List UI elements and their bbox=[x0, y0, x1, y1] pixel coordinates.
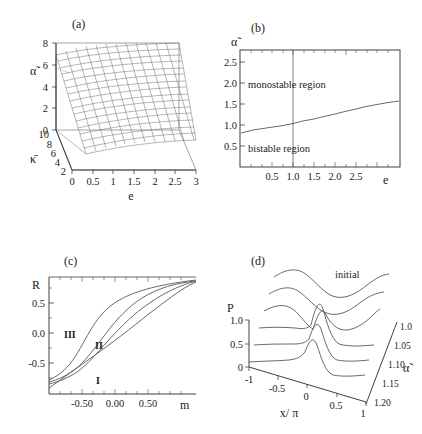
panel-d-depth-105: 1.05 bbox=[394, 341, 411, 351]
panel-c-bottom-ticks bbox=[60, 389, 181, 394]
panel-c-curve-label-II: II bbox=[95, 340, 103, 351]
panel-c-label: (c) bbox=[64, 254, 77, 268]
panel-a-xaxis-label: e bbox=[128, 189, 133, 203]
panel-d-zaxis-label: α̃ bbox=[403, 361, 413, 375]
panel-d-trace-1 bbox=[269, 288, 384, 315]
panel-c-xtick-050: 0.50 bbox=[139, 398, 157, 409]
panel-c-ytick-05: 0.5 bbox=[32, 298, 45, 309]
panel-c-yaxis-label: R bbox=[32, 278, 40, 292]
panel-b-ytick-15: 1.5 bbox=[224, 99, 237, 110]
panel-b-yaxis-label: α̃ bbox=[231, 35, 241, 49]
panel-b-label: (b) bbox=[251, 21, 265, 35]
panel-c-curve-label-III: III bbox=[64, 329, 76, 340]
panel-c-left-ticks bbox=[49, 303, 54, 363]
panel-b-bottom-ticks bbox=[251, 162, 388, 167]
panel-b-top-ticks bbox=[251, 50, 388, 55]
panel-d-depth-115: 1.15 bbox=[382, 379, 399, 389]
panel-d-trace-115 bbox=[254, 324, 369, 361]
panel-b: (b) bbox=[211, 0, 422, 217]
panel-b-xtick-05: 0.5 bbox=[265, 171, 278, 182]
panel-c-xtick-000: 0.00 bbox=[106, 398, 124, 409]
panel-b-xtick-15: 1.5 bbox=[307, 171, 320, 182]
panel-a-yaxis-label: κ̄ bbox=[30, 152, 38, 166]
panel-a: (a) bbox=[0, 0, 211, 217]
panel-d-zaxis: 1.0 1.05 1.10 1.15 1.20 α̃ bbox=[366, 322, 413, 408]
panel-a-xtick-15: 1.5 bbox=[127, 176, 140, 187]
panel-c-svg: (c) bbox=[0, 217, 211, 434]
panel-b-ytick-05: 0.5 bbox=[224, 141, 237, 152]
panel-b-xaxis-label: e bbox=[383, 173, 388, 187]
panel-c: (c) bbox=[0, 217, 211, 434]
panel-b-monostable-label: monostable region bbox=[248, 79, 327, 90]
panel-c-ytick-00: 0.0 bbox=[32, 328, 45, 339]
panel-c-xtick-neg050: -0.50 bbox=[71, 398, 93, 409]
panel-b-svg: (b) bbox=[211, 0, 422, 217]
panel-b-xtick-25: 2.5 bbox=[349, 171, 362, 182]
panel-d-xtick-neg05: -0.5 bbox=[269, 383, 286, 394]
panel-d-trace-105 bbox=[264, 306, 380, 331]
panel-d-label: (d) bbox=[251, 254, 265, 268]
panel-a-yaxis: 10 8 6 4 2 κ̄ bbox=[30, 129, 72, 177]
panel-d-xtick-0: 0 bbox=[303, 391, 308, 402]
panel-d-xtick-05: 0.5 bbox=[329, 400, 342, 411]
panel-a-xtick-1: 1 bbox=[110, 176, 115, 187]
panel-d-xaxis-label: x/ π bbox=[280, 406, 298, 420]
panel-b-ytick-10: 1.0 bbox=[224, 120, 237, 131]
panel-a-mesh-rows bbox=[56, 43, 196, 154]
panel-a-xtick-2: 2 bbox=[152, 176, 157, 187]
panel-c-xaxis-label: m bbox=[180, 398, 190, 412]
panel-a-ytick-2: 2 bbox=[61, 166, 66, 177]
panel-d-xtick-1: 1 bbox=[360, 408, 365, 419]
panel-a-xtick-25: 2.5 bbox=[168, 176, 181, 187]
panel-a-ztick-2: 2 bbox=[43, 103, 48, 114]
panel-c-curve-label-I: I bbox=[96, 375, 100, 386]
panel-a-zaxis: 8 6 4 2 0 α̃ bbox=[30, 38, 56, 136]
panel-c-ytick-neg05: -0.5 bbox=[28, 358, 45, 369]
panel-b-bistable-label: bistable region bbox=[248, 143, 311, 154]
panel-d-initial-label: initial bbox=[335, 269, 360, 280]
panel-a-ztick-4: 4 bbox=[43, 82, 49, 93]
panel-a-label: (a) bbox=[72, 17, 85, 31]
panel-a-svg: (a) bbox=[0, 0, 211, 217]
panel-a-box bbox=[56, 43, 196, 170]
panel-a-xaxis: 0 0.5 1 1.5 2 2.5 3 e bbox=[69, 170, 198, 203]
figure-container: (a) bbox=[0, 0, 422, 434]
panel-d-xaxis: -1 -0.5 0 0.5 1 x/ π bbox=[245, 367, 366, 420]
panel-d: (d) 1.0 0.5 0 P bbox=[211, 217, 422, 434]
panel-d-ytick-0: 0 bbox=[238, 362, 243, 373]
panel-a-zaxis-label: α̃ bbox=[30, 64, 40, 78]
panel-d-ytick-10: 1.0 bbox=[230, 315, 243, 326]
panel-d-ytick-05: 0.5 bbox=[230, 339, 243, 350]
panel-d-trace-initial bbox=[274, 270, 389, 297]
panel-b-left-ticks bbox=[240, 62, 245, 146]
panel-b-ytick-25: 2.5 bbox=[224, 57, 237, 68]
panel-d-depth-1: 1.0 bbox=[400, 322, 412, 332]
panel-b-xtick-20: 2.0 bbox=[328, 171, 341, 182]
panel-a-xtick-3: 3 bbox=[193, 176, 198, 187]
panel-d-yaxis-label: P bbox=[227, 301, 234, 315]
panel-d-svg: (d) 1.0 0.5 0 P bbox=[211, 217, 422, 434]
panel-a-ztick-6: 6 bbox=[43, 60, 48, 71]
panel-d-xtick-neg1: -1 bbox=[245, 374, 254, 385]
panel-b-ytick-20: 2.0 bbox=[224, 78, 237, 89]
panel-b-boundary-curve bbox=[241, 101, 399, 133]
panel-a-xtick-05: 0.5 bbox=[86, 176, 99, 187]
panel-d-depth-120: 1.20 bbox=[374, 398, 391, 408]
panel-d-yaxis: 1.0 0.5 0 P bbox=[227, 301, 249, 373]
panel-a-xtick-0: 0 bbox=[69, 176, 74, 187]
panel-b-xtick-10: 1.0 bbox=[286, 171, 299, 182]
panel-c-top-ticks bbox=[49, 277, 196, 282]
panel-a-ztick-8: 8 bbox=[43, 38, 48, 49]
